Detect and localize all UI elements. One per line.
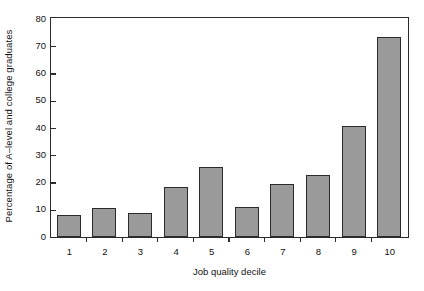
x-axis-tick-mark — [157, 237, 158, 242]
x-axis-tick-label: 7 — [263, 246, 303, 258]
x-axis-tick-label: 3 — [121, 246, 161, 258]
x-axis-tick-mark — [264, 237, 265, 242]
y-axis-tick-label: 50 — [18, 95, 46, 105]
y-axis-tick-mark — [51, 46, 56, 47]
y-axis-tick-label: 40 — [18, 123, 46, 133]
plot-area — [50, 17, 409, 238]
x-axis-tick-label: 8 — [299, 246, 339, 258]
bar — [57, 215, 81, 237]
bar-chart-figure: Percentage of A–level and college gradua… — [0, 0, 424, 291]
x-axis-title: Job quality decile — [50, 266, 409, 278]
bar — [235, 207, 259, 237]
x-axis-tick-mark — [300, 237, 301, 242]
x-axis-tick-label: 1 — [49, 246, 89, 258]
bar — [164, 187, 188, 237]
x-axis-tick-mark — [122, 237, 123, 242]
y-axis-tick-mark — [51, 101, 56, 102]
y-axis-title: Percentage of A–level and college gradua… — [2, 0, 16, 252]
y-axis-tick-label: 60 — [18, 68, 46, 78]
bar — [306, 175, 330, 237]
bar — [199, 167, 223, 237]
y-axis-tick-label: 20 — [18, 177, 46, 187]
x-axis-tick-label: 5 — [192, 246, 232, 258]
x-axis-tick-mark — [228, 237, 229, 242]
y-axis-tick-mark — [51, 73, 56, 74]
bar — [377, 37, 401, 237]
bar — [342, 126, 366, 237]
y-axis-tick-label: 30 — [18, 150, 46, 160]
bar — [128, 213, 152, 237]
x-axis-tick-label: 6 — [227, 246, 267, 258]
y-axis-tick-label: 70 — [18, 41, 46, 51]
x-axis-tick-mark — [86, 237, 87, 242]
y-axis-tick-mark — [51, 210, 56, 211]
x-axis-tick-mark — [371, 237, 372, 242]
y-axis-tick-mark — [51, 155, 56, 156]
y-axis-tick-label-group: 01020304050607080 — [18, 17, 46, 238]
x-axis-tick-label-group: 12345678910 — [50, 246, 409, 260]
x-axis-tick-mark — [335, 237, 336, 242]
x-axis-tick-label: 2 — [85, 246, 125, 258]
x-axis-tick-label: 10 — [370, 246, 410, 258]
y-axis-tick-label: 0 — [18, 232, 46, 242]
bar — [92, 208, 116, 237]
x-axis-tick-label: 9 — [334, 246, 374, 258]
x-axis-tick-mark — [193, 237, 194, 242]
bar — [270, 184, 294, 237]
y-axis-tick-mark — [51, 128, 56, 129]
bars-layer — [51, 18, 408, 237]
y-axis-tick-mark — [51, 182, 56, 183]
y-axis-tick-label: 10 — [18, 204, 46, 214]
x-axis-tick-label: 4 — [156, 246, 196, 258]
y-axis-tick-label: 80 — [18, 14, 46, 24]
